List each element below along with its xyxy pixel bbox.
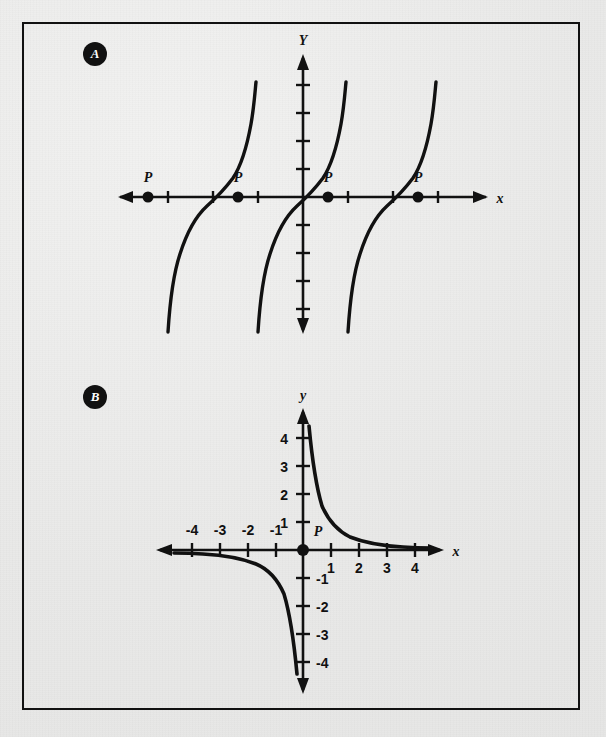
chart-a-x-axis-label: x <box>496 191 504 206</box>
y-tick-label-4: 4 <box>280 431 288 447</box>
chart-b-y-axis-label: y <box>298 388 307 403</box>
chart-a-y-axis-label: Y <box>299 33 309 48</box>
y-tick-label-1: 1 <box>280 515 288 531</box>
point-p-label-1: P <box>144 170 153 185</box>
x-axis-right-arrow <box>473 191 488 203</box>
x-axis-right-arrow <box>428 544 444 556</box>
y-axis-down-arrow <box>297 678 309 694</box>
point-p-label-3: P <box>324 170 333 185</box>
y-axis-up-arrow <box>297 408 309 424</box>
point-p-label-2: P <box>234 170 243 185</box>
point-p-2 <box>233 192 244 203</box>
y-tick-label-2: 2 <box>280 487 288 503</box>
point-p-label-4: P <box>414 170 423 185</box>
x-tick-label-3: 3 <box>383 560 391 576</box>
curve-branch-3 <box>348 82 436 332</box>
x-tick-label--4: -4 <box>186 522 199 538</box>
chart-b-x-axis-label: x <box>452 544 460 559</box>
point-p-1 <box>143 192 154 203</box>
chart-b-svg: -4 -3 -2 -1 1 2 3 4 4 3 2 1 -1 - <box>0 370 606 737</box>
x-tick-label--2: -2 <box>242 522 255 538</box>
point-p-4 <box>413 192 424 203</box>
y-tick-label-3: 3 <box>280 459 288 475</box>
y-tick-label--3: -3 <box>316 627 329 643</box>
y-axis-up-arrow <box>297 54 309 70</box>
curve-branch-positive <box>309 426 432 548</box>
x-axis-left-arrow <box>118 191 133 203</box>
curve-branch-1 <box>168 82 256 332</box>
y-tick-label--1: -1 <box>316 571 329 587</box>
x-tick-label--3: -3 <box>214 522 227 538</box>
point-p-3 <box>323 192 334 203</box>
y-axis-down-arrow <box>297 318 309 334</box>
x-tick-label-2: 2 <box>355 560 363 576</box>
y-tick-label--2: -2 <box>316 599 329 615</box>
curve-branch-negative <box>174 553 297 674</box>
chart-panel-b: -4 -3 -2 -1 1 2 3 4 4 3 2 1 -1 - <box>0 370 606 737</box>
origin-point-label: P <box>314 524 323 539</box>
y-tick-label--4: -4 <box>316 655 329 671</box>
origin-point <box>297 544 309 556</box>
chart-a-svg: P P P P x Y <box>0 0 606 370</box>
chart-panel-a: P P P P x Y <box>0 0 606 370</box>
x-axis-left-arrow <box>156 544 172 556</box>
x-tick-label-4: 4 <box>411 560 419 576</box>
